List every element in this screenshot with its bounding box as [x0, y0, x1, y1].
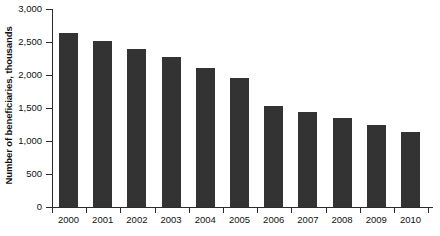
y-axis-tick-label: 3,000: [0, 4, 42, 14]
x-axis-tick: [291, 208, 292, 213]
y-axis-tick-label: 2,500: [0, 37, 42, 47]
y-axis-tick-label: 1,000: [0, 136, 42, 146]
x-axis-tick: [52, 208, 53, 213]
y-axis-tick-label: 0: [0, 202, 42, 212]
bar-2008: [333, 118, 352, 207]
bar-2000: [59, 33, 78, 207]
plot-area: [52, 9, 433, 207]
bar-2007: [298, 112, 317, 207]
y-axis-tick-label: 2,000: [0, 70, 42, 80]
x-axis-tick: [394, 208, 395, 213]
x-axis-tick: [257, 208, 258, 213]
x-axis-line: [52, 207, 433, 208]
bar-2006: [264, 106, 283, 207]
x-axis-tick: [223, 208, 224, 213]
x-axis-tick: [428, 208, 429, 213]
x-axis-tick: [360, 208, 361, 213]
x-axis-tick: [189, 208, 190, 213]
y-axis-tick-label: 500: [0, 169, 42, 179]
x-axis-tick-label-2010: 2010: [391, 215, 431, 225]
x-axis-tick: [120, 208, 121, 213]
bar-2003: [162, 57, 181, 207]
x-axis-tick: [326, 208, 327, 213]
bar-2002: [127, 49, 146, 207]
x-axis-tick: [155, 208, 156, 213]
bar-2010: [401, 132, 420, 207]
bar-2005: [230, 78, 249, 207]
bar-2009: [367, 125, 386, 208]
x-axis-tick: [86, 208, 87, 213]
bar-2001: [93, 41, 112, 207]
bar-2004: [196, 68, 215, 207]
bar-chart-figure: Number of beneficiaries, thousands 05001…: [0, 0, 440, 236]
y-axis-tick-label: 1,500: [0, 103, 42, 113]
